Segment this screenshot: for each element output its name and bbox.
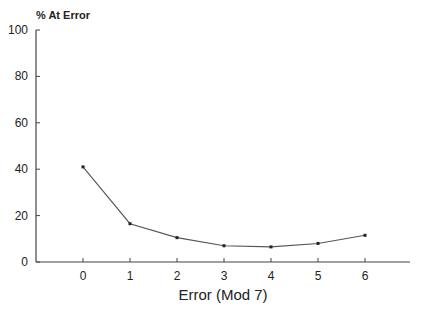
y-tick-label: 80 bbox=[15, 69, 29, 83]
series-line bbox=[83, 167, 365, 247]
data-point bbox=[82, 165, 85, 168]
y-axis-label: % At Error bbox=[36, 9, 91, 21]
y-tick-label: 20 bbox=[15, 209, 29, 223]
x-axis-label: Error (Mod 7) bbox=[178, 286, 267, 303]
data-point bbox=[317, 242, 320, 245]
x-tick-label: 5 bbox=[315, 269, 322, 283]
data-point bbox=[270, 245, 273, 248]
x-tick-label: 3 bbox=[221, 269, 228, 283]
y-tick-label: 40 bbox=[15, 162, 29, 176]
data-point bbox=[223, 244, 226, 247]
data-point bbox=[176, 236, 179, 239]
data-series bbox=[82, 165, 367, 248]
line-chart: 0204060801000123456 % At Error Error (Mo… bbox=[0, 0, 423, 310]
x-tick-label: 6 bbox=[362, 269, 369, 283]
data-point bbox=[129, 222, 132, 225]
x-tick-label: 1 bbox=[127, 269, 134, 283]
x-tick-label: 2 bbox=[174, 269, 181, 283]
y-tick-label: 100 bbox=[8, 23, 28, 37]
x-tick-label: 4 bbox=[268, 269, 275, 283]
x-tick-label: 0 bbox=[80, 269, 87, 283]
y-tick-label: 0 bbox=[21, 255, 28, 269]
axes: 0204060801000123456 bbox=[8, 23, 410, 283]
data-point bbox=[364, 234, 367, 237]
y-tick-label: 60 bbox=[15, 116, 29, 130]
